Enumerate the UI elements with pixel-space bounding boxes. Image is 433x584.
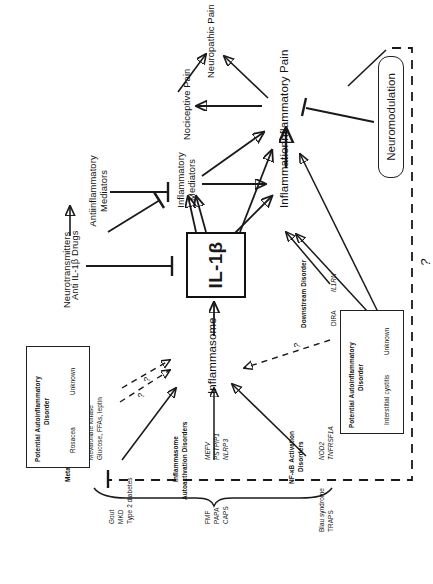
box-rosacea-heading-2: Disorder xyxy=(43,398,51,425)
node-inflammation: Inflammation xyxy=(278,141,290,208)
group-disease-fmf: FMF xyxy=(204,511,212,524)
box-ic-heading-2: Disorder xyxy=(357,364,365,391)
group-disease-mkd: MKD xyxy=(117,509,125,524)
group-disease-papa: PAPA xyxy=(213,508,221,525)
box-potential-rosacea: Potential Autoinflammatory Disorder Rosa… xyxy=(26,346,90,468)
edge-label-question-3: ? xyxy=(292,343,302,348)
group-heading-downstream: Downstream Disorder xyxy=(300,260,308,328)
node-inflammasome: Inflammasome xyxy=(206,317,218,394)
group-trigger-mefv: MEFV xyxy=(204,442,212,460)
box-ic-disease: Interstitial cystitis xyxy=(383,375,391,425)
group-trigger-tnfrsf1a: TNFRSF1A xyxy=(327,426,335,460)
group-disease-traps: TRAPS xyxy=(327,510,335,532)
node-neuropathic-pain: Neuropathic Pain xyxy=(206,4,216,78)
node-neuromodulation: Neuromodulation xyxy=(378,56,404,178)
box-rosacea-trigger: Unknown xyxy=(69,368,77,395)
group-disease-dira: DIRA xyxy=(330,310,338,326)
node-nociceptive-pain: Nociceptive Pain xyxy=(182,69,192,140)
edge-label-question-1: ? xyxy=(136,393,146,398)
group-disease-caps: CAPS xyxy=(222,506,230,524)
node-il1b: IL-1β xyxy=(186,232,246,298)
box-rosacea-heading-1: Potential Autoinflammatory xyxy=(34,376,42,462)
box-rosacea-disease: Rosacea xyxy=(69,427,77,453)
group-trigger-nod2: NOD2 xyxy=(318,442,326,460)
group-trigger-il1rn: IL1RN xyxy=(330,273,338,292)
group-trigger-glucose: Glucose, FFAs, leptin xyxy=(96,397,104,460)
node-inflammatory-mediators-line1: Inflammatory xyxy=(176,150,186,210)
group-trigger-nlrp3: NLRP3 xyxy=(222,439,230,460)
node-inflammatory-mediators-line2: Mediators xyxy=(187,150,197,210)
edge-label-question-2: ? xyxy=(142,377,152,382)
node-anti-il1b-drugs: Anti IL-1β Drugs xyxy=(70,230,80,300)
box-potential-interstitial-cystitis: Potential Autoinflammatory Disorder Inte… xyxy=(340,310,404,434)
group-disease-t2d: Type 2 diabetes xyxy=(126,477,134,524)
group-heading-autoactivation-1: Inflammasome xyxy=(172,436,180,482)
node-antiinflammatory-mediators-line1: Antiinflammatory xyxy=(88,154,98,228)
group-disease-gout: Gout xyxy=(108,510,116,524)
node-inflammatory-pain: Inflammatory Pain xyxy=(278,50,290,144)
node-antiinflammatory-mediators-line2: Mediators xyxy=(99,154,109,228)
group-trigger-pstpip1: PSTPIP1 xyxy=(213,433,221,460)
bottom-question-mark: ? xyxy=(418,259,433,266)
group-disease-blau: Blau syndrome xyxy=(318,488,326,532)
group-heading-nfkb-1: NF-κВ Activation xyxy=(288,431,296,484)
group-heading-autoactivation-2: Autoactivation Disorders xyxy=(181,422,189,500)
box-ic-heading-1: Potential Autoinflammatory xyxy=(348,342,356,428)
box-ic-trigger: Unknown xyxy=(383,328,391,355)
group-heading-nfkb-2: Disorders xyxy=(297,441,305,472)
